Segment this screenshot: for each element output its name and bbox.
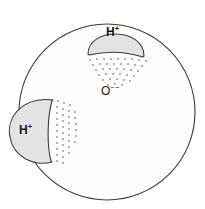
proton-left-label: H+ (19, 122, 33, 137)
proton-top-label-element: H (106, 25, 115, 39)
diagram-canvas (0, 0, 205, 209)
oxygen-label-charge: −− (110, 83, 120, 92)
oxygen-label-element: O (101, 84, 110, 98)
proton-top-label-charge: + (115, 24, 120, 33)
proton-left-label-element: H (19, 123, 28, 137)
oxygen-label: O−− (101, 83, 120, 98)
proton-left-label-charge: + (28, 122, 33, 131)
water-molecule-diagram: H+ H+ O−− (0, 0, 205, 209)
proton-top-label: H+ (106, 24, 120, 39)
